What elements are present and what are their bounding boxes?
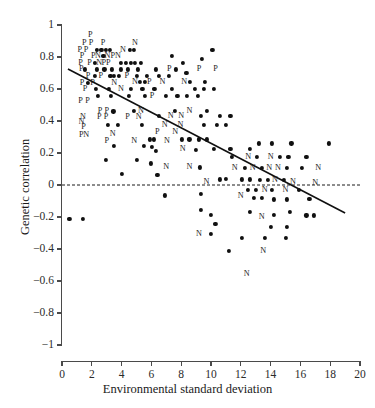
data-point-label-n: N bbox=[244, 270, 250, 278]
data-point-label-n: N bbox=[245, 153, 251, 161]
data-point-label-n: N bbox=[111, 78, 117, 86]
data-point-label-p: P bbox=[106, 58, 111, 66]
y-tick-label: 0.8 bbox=[40, 51, 54, 63]
data-point-label-p: P bbox=[125, 72, 130, 80]
x-tick-mark bbox=[359, 361, 360, 366]
data-point-label-n: N bbox=[260, 246, 266, 254]
data-point-label-n: N bbox=[177, 121, 183, 129]
data-point-label-n: N bbox=[132, 39, 138, 47]
x-tick-label: 14 bbox=[265, 369, 277, 381]
data-point-label-p: P bbox=[98, 72, 103, 80]
data-point-label-n: N bbox=[131, 137, 137, 145]
x-tick-mark bbox=[330, 361, 331, 366]
y-tick-label: 0.6 bbox=[40, 83, 54, 95]
data-point-label-n: N bbox=[168, 112, 174, 120]
data-point-label-n: N bbox=[250, 164, 256, 172]
data-point-label-n: N bbox=[315, 164, 321, 172]
x-tick-label: 0 bbox=[59, 369, 65, 381]
data-point-label-n: N bbox=[120, 46, 126, 54]
data-point-label-p: P bbox=[125, 113, 130, 121]
data-point-label-p: P bbox=[104, 113, 109, 121]
data-point-label-p: P bbox=[87, 58, 92, 66]
data-point-label-p: P bbox=[150, 92, 155, 100]
data-point-label-n: N bbox=[172, 128, 178, 136]
data-point-label-n: N bbox=[262, 186, 268, 194]
x-tick-label: 2 bbox=[89, 369, 95, 381]
y-tick-label: 0 bbox=[48, 179, 54, 191]
y-tick-label: 1 bbox=[48, 19, 54, 31]
data-point-label-n: N bbox=[162, 121, 168, 129]
data-point-label-n: N bbox=[259, 213, 265, 221]
x-tick-mark bbox=[181, 361, 182, 366]
data-point-label-n: N bbox=[272, 176, 278, 184]
data-point-label-p: P bbox=[147, 78, 152, 86]
data-point-label-n: N bbox=[186, 106, 192, 114]
data-point-label-p: P bbox=[78, 97, 83, 105]
data-point-label-n: N bbox=[238, 192, 244, 200]
x-tick-label: 18 bbox=[324, 369, 336, 381]
y-tick-label: 0.2 bbox=[40, 147, 54, 159]
data-point-label-n: N bbox=[163, 163, 169, 171]
data-point-label-n: N bbox=[181, 78, 187, 86]
data-point-label-n: N bbox=[186, 163, 192, 171]
data-point-label-n: N bbox=[115, 52, 121, 60]
data-point-label-n: N bbox=[180, 145, 186, 153]
data-point-label-n: N bbox=[290, 178, 296, 186]
data-point-label-n: N bbox=[232, 164, 238, 172]
data-point-label-p: P bbox=[101, 39, 106, 47]
x-tick-label: 12 bbox=[235, 369, 247, 381]
x-tick-mark bbox=[240, 361, 241, 366]
data-point-label-p: P bbox=[83, 85, 88, 93]
data-point-label-n: N bbox=[204, 178, 210, 186]
x-axis-title: Environmental standard deviation bbox=[0, 382, 375, 397]
data-point-label-n: N bbox=[283, 186, 289, 194]
data-point-label-p: P bbox=[155, 128, 160, 136]
data-point-label-n: N bbox=[164, 137, 170, 145]
x-tick-label: 6 bbox=[149, 369, 155, 381]
data-point-label-n: N bbox=[132, 78, 138, 86]
y-axis-title: Genetic correlation bbox=[18, 139, 33, 235]
x-tick-label: 16 bbox=[295, 369, 307, 381]
data-point-label-n: N bbox=[312, 178, 318, 186]
y-tick-label: −0.8 bbox=[33, 307, 54, 319]
data-point-label-n: N bbox=[160, 78, 166, 86]
data-point-label-n: N bbox=[110, 130, 116, 138]
x-tick-label: 10 bbox=[205, 369, 217, 381]
data-point-label-p: P bbox=[213, 65, 218, 73]
data-point-label-p: P bbox=[104, 137, 109, 145]
y-tick-label: −1 bbox=[42, 339, 54, 351]
scatter-plot-figure: −1−0.8−0.6−0.4−0.200.20.40.60.81 0246810… bbox=[0, 0, 375, 408]
y-tick-label: −0.2 bbox=[33, 211, 54, 223]
y-tick-label: −0.4 bbox=[33, 243, 54, 255]
data-point-label-n: N bbox=[266, 164, 272, 172]
x-tick-label: 8 bbox=[178, 369, 184, 381]
x-tick-mark bbox=[210, 361, 211, 366]
data-point-label-p: P bbox=[89, 39, 94, 47]
data-point-label-n: N bbox=[118, 85, 124, 93]
data-point-label-p: P bbox=[97, 113, 102, 121]
data-point-label-n: N bbox=[196, 230, 202, 238]
plot-area: PPPPNPPNPPNNPNPPNPPPPPPPPPPPNNPNNPNPPPPP… bbox=[62, 25, 360, 345]
data-point-label-n: N bbox=[268, 153, 274, 161]
x-tick-label: 4 bbox=[119, 369, 125, 381]
x-tick-mark bbox=[300, 361, 301, 366]
y-tick-label: 0.4 bbox=[40, 115, 54, 127]
x-tick-mark bbox=[91, 361, 92, 366]
data-point-label-n: N bbox=[83, 130, 89, 138]
data-point-label-p: P bbox=[90, 78, 95, 86]
data-point-label-n: N bbox=[136, 113, 142, 121]
x-tick-mark bbox=[270, 361, 271, 366]
data-point-label-p: P bbox=[167, 65, 172, 73]
y-tick-label: −0.6 bbox=[33, 275, 54, 287]
x-tick-mark bbox=[151, 361, 152, 366]
data-point-label-n: N bbox=[275, 164, 281, 172]
x-tick-mark bbox=[61, 361, 62, 366]
data-point-label-p: P bbox=[85, 97, 90, 105]
x-tick-mark bbox=[121, 361, 122, 366]
x-tick-label: 20 bbox=[354, 369, 366, 381]
data-point-label-p: P bbox=[197, 65, 202, 73]
